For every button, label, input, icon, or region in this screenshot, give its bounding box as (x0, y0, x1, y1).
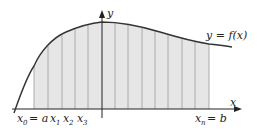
svg-text:1: 1 (56, 119, 60, 127)
riemann-diagram: y x y = f(x) x 0 = a x 1 x 2 x 3 x n = b (0, 0, 257, 131)
label-x3: x 3 (77, 112, 88, 127)
svg-text:= a: = a (29, 112, 48, 125)
y-axis-label: y (106, 7, 114, 20)
curve-label: y = f(x) (205, 29, 247, 42)
svg-text:2: 2 (68, 119, 74, 127)
label-x2: x 2 (63, 112, 74, 127)
label-xn: x n = b (195, 112, 227, 127)
label-x0: x 0 = a (17, 112, 48, 127)
x-axis-label: x (230, 96, 237, 109)
svg-text:0: 0 (23, 119, 28, 127)
svg-text:= b: = b (207, 112, 227, 125)
svg-text:3: 3 (83, 119, 88, 127)
label-x1: x 1 (50, 112, 60, 127)
svg-text:n: n (201, 119, 206, 127)
